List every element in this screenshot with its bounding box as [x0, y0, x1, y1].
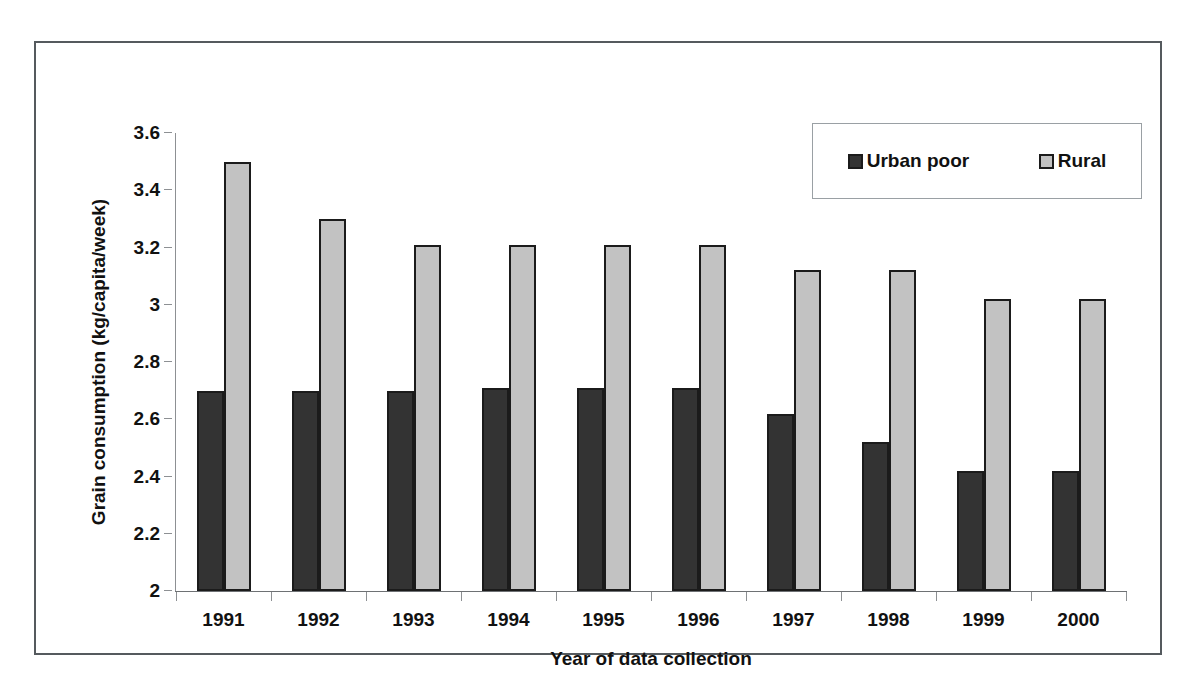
bar-urban-poor-2000: [1052, 471, 1079, 591]
y-tick-label: 2.6: [134, 408, 160, 430]
bar-rural-1996: [699, 245, 726, 591]
bar-urban-poor-1993: [387, 391, 414, 591]
x-tick-label-2000: 2000: [1057, 609, 1099, 631]
y-tick-mark: [164, 304, 172, 305]
y-tick-mark: [164, 189, 172, 190]
legend-swatch-icon: [848, 154, 863, 169]
x-tick-mark: [461, 592, 462, 601]
bar-urban-poor-1999: [957, 471, 984, 591]
x-axis-title: Year of data collection: [176, 648, 1126, 670]
bar-urban-poor-1995: [577, 388, 604, 591]
x-tick-label-1999: 1999: [962, 609, 1004, 631]
bar-urban-poor-1992: [292, 391, 319, 591]
bar-rural-1993: [414, 245, 441, 591]
bar-rural-2000: [1079, 299, 1106, 591]
bar-rural-1994: [509, 245, 536, 591]
y-tick-label: 3.2: [134, 237, 160, 259]
y-tick-label: 2.8: [134, 351, 160, 373]
x-tick-mark: [176, 592, 177, 601]
legend-entry-rural[interactable]: Rural: [1039, 150, 1107, 172]
x-tick-label-1995: 1995: [582, 609, 624, 631]
legend-swatch-icon: [1039, 154, 1054, 169]
y-tick-label: 3.6: [134, 122, 160, 144]
bar-rural-1999: [984, 299, 1011, 591]
x-tick-mark: [746, 592, 747, 601]
y-tick-label: 2.2: [134, 523, 160, 545]
y-tick-label: 3: [149, 294, 160, 316]
x-tick-label-1991: 1991: [202, 609, 244, 631]
bar-urban-poor-1997: [767, 414, 794, 591]
x-tick-label-1993: 1993: [392, 609, 434, 631]
x-tick-mark: [651, 592, 652, 601]
bar-rural-1997: [794, 270, 821, 591]
x-tick-label-1998: 1998: [867, 609, 909, 631]
bar-urban-poor-1991: [197, 391, 224, 591]
y-tick-label: 2.4: [134, 466, 160, 488]
bar-urban-poor-1994: [482, 388, 509, 591]
x-tick-mark: [366, 592, 367, 601]
y-tick-mark: [164, 533, 172, 534]
x-tick-label-1994: 1994: [487, 609, 529, 631]
x-tick-label-1996: 1996: [677, 609, 719, 631]
x-tick-mark: [1126, 592, 1127, 601]
bar-rural-1998: [889, 270, 916, 591]
y-tick-mark: [164, 361, 172, 362]
x-tick-mark: [936, 592, 937, 601]
y-tick-mark: [164, 247, 172, 248]
bar-urban-poor-1998: [862, 442, 889, 591]
legend-label: Rural: [1058, 150, 1107, 172]
y-axis-title: Grain consumption (kg/capita/week): [84, 133, 114, 591]
y-tick-label: 2: [149, 580, 160, 602]
y-tick-label: 3.4: [134, 179, 160, 201]
bar-rural-1995: [604, 245, 631, 591]
y-tick-mark: [164, 418, 172, 419]
x-tick-mark: [556, 592, 557, 601]
bar-rural-1992: [319, 219, 346, 591]
x-tick-mark: [841, 592, 842, 601]
y-tick-mark: [164, 132, 172, 133]
x-tick-label-1997: 1997: [772, 609, 814, 631]
plot-area: [176, 133, 1126, 591]
bar-rural-1991: [224, 162, 251, 591]
x-tick-mark: [271, 592, 272, 601]
bar-urban-poor-1996: [672, 388, 699, 591]
y-tick-mark: [164, 590, 172, 591]
legend-entry-urban-poor[interactable]: Urban poor: [848, 150, 969, 172]
y-tick-mark: [164, 476, 172, 477]
figure-frame: Grain consumption (kg/capita/week) Year …: [34, 41, 1162, 655]
chart-legend: Urban poorRural: [812, 123, 1142, 199]
legend-label: Urban poor: [867, 150, 969, 172]
x-tick-label-1992: 1992: [297, 609, 339, 631]
x-tick-mark: [1031, 592, 1032, 601]
